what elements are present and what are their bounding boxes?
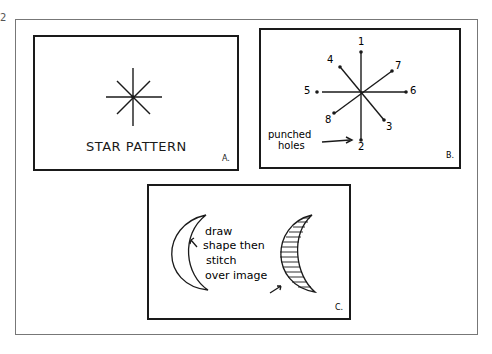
note-line-over-image: over image [205, 269, 267, 282]
crescent-outline-icon [172, 215, 208, 290]
stitch-lines-icon [280, 218, 311, 287]
note-line-draw: draw [205, 225, 232, 238]
note-line-stitch: stitch [206, 254, 236, 267]
panel-c-drawing [0, 0, 492, 354]
panel-c-label: C. [335, 303, 343, 312]
note-line-shape-then: shape then [203, 239, 265, 252]
